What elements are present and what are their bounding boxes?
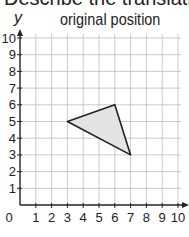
y-tick-label: 1 xyxy=(9,181,16,196)
y-axis-arrow-icon xyxy=(17,29,23,36)
x-tick-label: 0 xyxy=(5,210,12,225)
y-tick-label: 3 xyxy=(9,147,16,162)
x-axis-arrow-icon xyxy=(182,202,189,208)
y-tick-label: 10 xyxy=(2,31,16,46)
y-tick-label: 4 xyxy=(9,131,16,146)
x-tick-label: 5 xyxy=(95,210,102,225)
y-tick-label: 9 xyxy=(9,47,16,62)
x-tick-label: 1 xyxy=(32,210,39,225)
y-tick-label: 5 xyxy=(9,114,16,129)
x-tick-label: 6 xyxy=(111,210,118,225)
x-tick-label: 3 xyxy=(64,210,71,225)
x-tick-label: 7 xyxy=(127,210,134,225)
coordinate-grid: 01234567891012345678910 xyxy=(0,0,189,237)
x-tick-label: 9 xyxy=(159,210,166,225)
x-tick-label: 8 xyxy=(143,210,150,225)
y-tick-label: 6 xyxy=(9,97,16,112)
y-tick-label: 2 xyxy=(9,164,16,179)
x-tick-label: 4 xyxy=(80,210,87,225)
y-tick-label: 8 xyxy=(9,64,16,79)
y-tick-label: 7 xyxy=(9,81,16,96)
x-tick-label: 2 xyxy=(48,210,55,225)
x-tick-label: 10 xyxy=(171,210,185,225)
